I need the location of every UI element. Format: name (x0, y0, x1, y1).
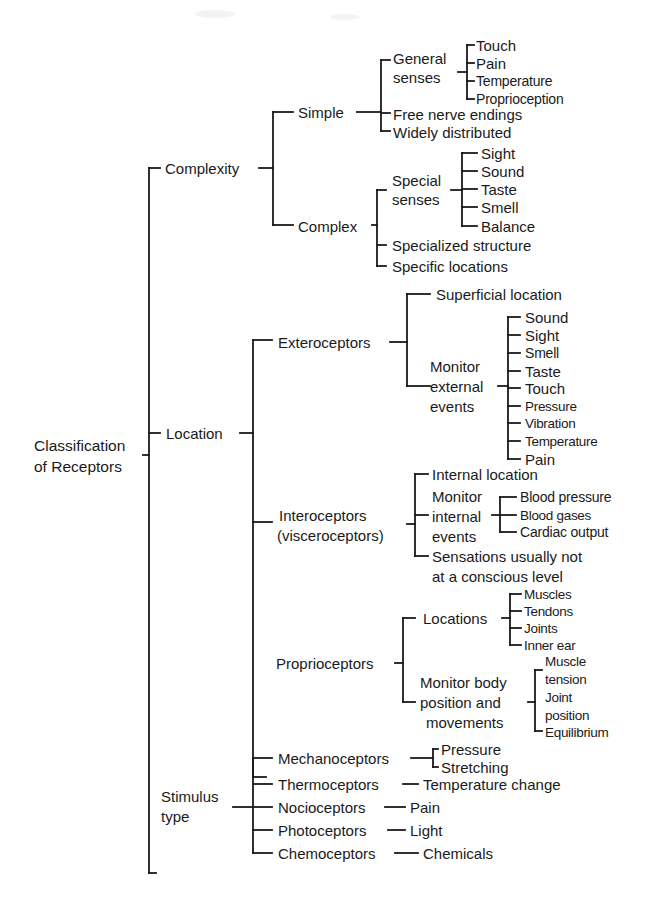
external-event-item: Pressure (525, 398, 577, 415)
monitor-external-line1: Monitor (430, 358, 480, 375)
interoceptors-line2: (visceroceptors) (277, 527, 384, 544)
superficial-location: Superficial location (436, 286, 562, 303)
root-label-line1: Classification (34, 437, 125, 454)
external-event-item: Vibration (525, 415, 575, 432)
photoceptors-target: Light (410, 822, 443, 839)
body-monitor-item: tension (545, 671, 586, 688)
free-nerve-endings: Free nerve endings (393, 106, 522, 123)
special-senses-line1: Special (392, 172, 441, 189)
sensations-line1: Sensations usually not (432, 548, 582, 565)
monitor-internal-line1: Monitor (432, 488, 482, 505)
body-monitor-item: Muscle (545, 653, 586, 670)
stimulus-type-line2: type (161, 808, 189, 825)
chemoceptors-target: Chemicals (423, 845, 493, 862)
proprio-location-item: Inner ear (524, 637, 575, 654)
monitor-body-line2: position and (420, 694, 501, 711)
proprioceptors-label: Proprioceptors (276, 655, 374, 672)
proprio-location-item: Muscles (524, 586, 571, 603)
complex-label: Complex (298, 218, 357, 235)
locations-label: Locations (423, 610, 487, 627)
body-monitor-item: position (545, 707, 589, 724)
location-label: Location (166, 425, 223, 442)
monitor-internal-line2: internal (432, 508, 481, 525)
internal-event-item: Blood pressure (520, 489, 611, 506)
exteroceptors-label: Exteroceptors (278, 334, 371, 351)
internal-event-item: Blood gases (520, 507, 591, 524)
specific-locations: Specific locations (392, 258, 508, 275)
monitor-external-line2: external (430, 378, 483, 395)
receptor-classification-diagram: Classification of Receptors Complexity S… (0, 0, 662, 905)
monitor-body-line3: movements (426, 714, 504, 731)
external-event-item: Touch (525, 380, 565, 397)
root-label-line2: of Receptors (34, 458, 122, 475)
general-senses-line1: General (393, 50, 446, 67)
general-sense-item: Temperature (476, 73, 552, 90)
special-sense-item: Sight (481, 145, 515, 162)
specialized-structure: Specialized structure (392, 237, 531, 254)
nocioceptors-label: Nocioceptors (278, 799, 366, 816)
widely-distributed: Widely distributed (393, 124, 511, 141)
special-sense-item: Smell (481, 199, 519, 216)
general-sense-item: Pain (476, 55, 506, 72)
mechano-item: Pressure (441, 741, 501, 758)
thermoceptors-label: Thermoceptors (278, 776, 379, 793)
monitor-external-line3: events (430, 398, 474, 415)
external-event-item: Temperature (525, 433, 598, 450)
interoceptors-line1: Interoceptors (279, 507, 367, 524)
monitor-body-line1: Monitor body (420, 674, 507, 691)
body-monitor-item: Joint (545, 689, 572, 706)
external-event-item: Sound (525, 309, 568, 326)
mechanoceptors-label: Mechanoceptors (278, 750, 389, 767)
thermoceptors-target: Temperature change (423, 776, 561, 793)
external-event-item: Smell (525, 345, 559, 362)
external-event-item: Taste (525, 363, 561, 380)
special-sense-item: Balance (481, 218, 535, 235)
chemoceptors-label: Chemoceptors (278, 845, 376, 862)
sensations-line2: at a conscious level (432, 568, 563, 585)
external-event-item: Sight (525, 327, 559, 344)
mechano-item: Stretching (441, 759, 509, 776)
special-sense-item: Taste (481, 181, 517, 198)
photoceptors-label: Photoceptors (278, 822, 366, 839)
special-senses-line2: senses (392, 191, 440, 208)
internal-location: Internal location (432, 466, 538, 483)
complexity-label: Complexity (165, 160, 239, 177)
proprio-location-item: Tendons (524, 603, 573, 620)
special-sense-item: Sound (481, 163, 524, 180)
internal-event-item: Cardiac output (520, 524, 608, 541)
general-sense-item: Touch (476, 37, 516, 54)
simple-label: Simple (298, 104, 344, 121)
general-senses-line2: senses (393, 69, 441, 86)
proprio-location-item: Joints (524, 620, 557, 637)
stimulus-type-line1: Stimulus (161, 788, 219, 805)
monitor-internal-line3: events (432, 528, 476, 545)
nocioceptors-target: Pain (410, 799, 440, 816)
body-monitor-item: Equilibrium (545, 724, 608, 741)
